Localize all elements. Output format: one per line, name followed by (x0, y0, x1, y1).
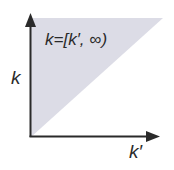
x-axis-arrowhead-icon (146, 131, 160, 142)
y-axis-label: k (11, 67, 21, 89)
diagram-canvas (0, 0, 174, 170)
x-axis-label: k′ (129, 141, 142, 163)
region-label: k=[k′, ∞) (45, 30, 107, 50)
region-diagram: k=[k′, ∞) k k′ (0, 0, 174, 170)
